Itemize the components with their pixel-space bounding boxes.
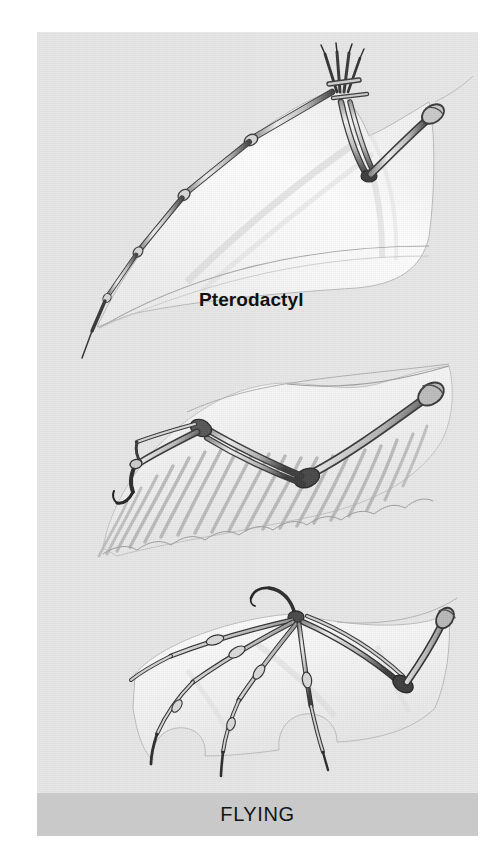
figure-root: Pterodactyl [0,0,502,855]
pterodactyl-wing-drawing [37,32,478,362]
bat-wing-drawing [37,584,478,794]
bird-wing-drawing [37,350,478,600]
specimen-panel-bird: Bird [37,350,478,600]
specimen-panel-pterodactyl: Pterodactyl [37,32,478,362]
pterodactyl-clawed-fingers [321,43,367,98]
category-bar-label: FLYING [220,803,294,826]
pterodactyl-guide-line [435,76,473,102]
illustration-plate: Pterodactyl [37,32,478,836]
category-bar: FLYING [37,793,478,836]
specimen-label-pterodactyl: Pterodactyl [199,289,304,311]
bird-wing-body [103,366,452,556]
bat-thumb-claw [251,588,295,614]
specimen-panel-bat: Bat [37,584,478,794]
